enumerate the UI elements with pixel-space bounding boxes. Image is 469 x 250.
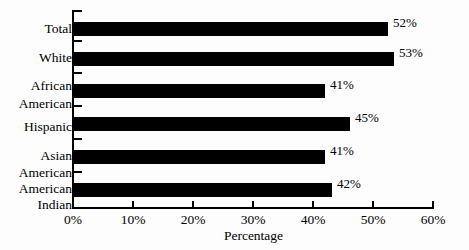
y-tick: [73, 138, 82, 140]
x-tick-20: [192, 201, 194, 208]
x-tick-60: [432, 201, 434, 209]
x-tick-label-60: 60%: [403, 212, 463, 228]
x-tick-40: [312, 201, 314, 208]
bar-value-label: 53%: [399, 46, 423, 60]
x-axis-title-text: Percentage: [224, 228, 283, 243]
x-tick-30: [252, 201, 254, 208]
y-category-label-total: Total: [0, 21, 72, 37]
x-tick-label-0: 0%: [43, 212, 103, 228]
y-tick: [73, 40, 82, 42]
y-tick: [73, 72, 82, 74]
bar-value-label: 42%: [337, 177, 361, 191]
bar-african-american: [73, 84, 325, 98]
y-tick: [73, 10, 82, 12]
bar-hispanic: [73, 117, 350, 131]
y-tick: [73, 171, 82, 173]
bar-white: [73, 52, 394, 66]
bar-asian-american: [73, 150, 325, 164]
bar-american-indian: [73, 183, 332, 197]
plot-area: 52% 53% 41% 45% 41%: [73, 10, 433, 208]
y-category-label-african-american-line2: American: [0, 96, 72, 112]
bar-value-label: 45%: [355, 111, 379, 125]
y-category-label-asian-american-line1: Asian: [0, 148, 72, 164]
x-axis-title: Percentage: [0, 228, 469, 244]
x-tick-label-40: 40%: [283, 212, 343, 228]
bar-value-label: 41%: [330, 144, 354, 158]
bar-value-label: 52%: [393, 16, 417, 30]
x-tick-label-10: 10%: [103, 212, 163, 228]
x-tick-label-50: 50%: [343, 212, 403, 228]
y-category-label-white: White: [0, 50, 72, 66]
x-tick-label-30: 30%: [223, 212, 283, 228]
y-category-label-african-american-line1: African: [0, 78, 72, 94]
y-category-label-american-indian-line2: Indian: [0, 197, 72, 213]
y-category-label-american-indian-line1: American: [0, 181, 72, 197]
x-tick-10: [132, 201, 134, 208]
x-tick-50: [372, 201, 374, 208]
bar-value-label: 41%: [330, 78, 354, 92]
y-category-label-asian-american-line2: American: [0, 165, 72, 181]
bar-total: [73, 22, 388, 36]
y-tick: [73, 105, 82, 107]
x-tick-label-20: 20%: [163, 212, 223, 228]
x-tick-0: [72, 201, 74, 209]
bar-chart: 52% 53% 41% 45% 41%: [0, 0, 469, 250]
y-category-label-hispanic: Hispanic: [0, 119, 72, 135]
